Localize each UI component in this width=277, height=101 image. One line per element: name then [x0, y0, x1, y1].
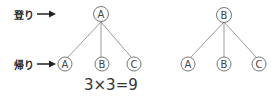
- tree-2-child-a-letter: A: [185, 59, 192, 70]
- arrow-up-icon: [37, 11, 56, 18]
- tree-2-root-letter: B: [221, 10, 228, 21]
- arrow-return-icon: [37, 61, 56, 68]
- tree-2-child-c-letter: C: [256, 59, 263, 70]
- tree-diagram: A A B C B A B C: [0, 0, 277, 101]
- tree-1-root-letter: A: [98, 9, 105, 20]
- tree-2-branches: [191, 22, 256, 57]
- tree-1-branches: [68, 22, 131, 57]
- tree-2-child-b-letter: B: [221, 59, 228, 70]
- tree-1-child-b-letter: B: [99, 59, 106, 70]
- tree-1-child-a-letter: A: [62, 59, 69, 70]
- equation: 3×3=9: [84, 76, 138, 94]
- tree-1-child-c-letter: C: [131, 59, 138, 70]
